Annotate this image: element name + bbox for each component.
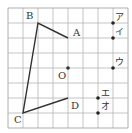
candidate-label-a: ア xyxy=(115,12,124,22)
point-label-d: D xyxy=(71,100,79,111)
candidate-label-i: イ xyxy=(115,27,124,37)
candidate-o-dot xyxy=(96,111,100,115)
candidate-e-dot xyxy=(96,96,100,100)
point-label-b: B xyxy=(26,10,33,21)
point-label-o: O xyxy=(58,70,66,81)
candidate-label-o: オ xyxy=(101,101,110,111)
grid-diagram: ABCDO アイウエオ xyxy=(0,0,132,133)
candidate-label-u: ウ xyxy=(115,57,124,67)
point-o-dot xyxy=(66,66,70,70)
candidate-points: アイウエオ xyxy=(96,12,124,115)
grid-canvas: ABCDO アイウエオ xyxy=(0,0,132,133)
point-label-a: A xyxy=(72,27,81,38)
candidate-label-e: エ xyxy=(101,88,110,98)
point-label-c: C xyxy=(14,114,22,125)
